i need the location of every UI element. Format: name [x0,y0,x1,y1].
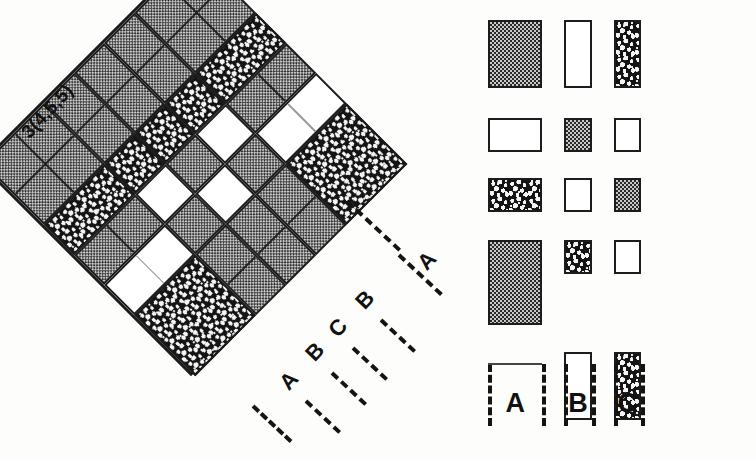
legend-column-a-baseline [488,363,542,365]
composite-edge-tick [305,400,341,434]
legend-bracket-b-right [592,364,596,426]
rotated-composite-grid [0,0,403,376]
legend-bracket-a-left [488,364,492,426]
legend-bracket-c-left [614,364,618,426]
legend-bracket-c-right [641,364,645,426]
legend-block-c-r4 [614,240,641,274]
composite-edge-label-b-1: B [300,337,330,366]
legend-block-b-r1 [564,20,591,88]
composite-edge-label-a-0: A [274,366,304,395]
composite-edge-label-c-2: C [323,313,353,342]
legend-block-a-r3 [488,178,542,212]
legend-column-label-b: B [564,388,591,419]
legend-block-b-r3 [564,178,591,212]
composite-edge-tick-end [346,200,401,252]
composite-edge-tick [352,347,388,381]
legend-block-c-r3 [614,178,641,212]
rotated-composite-wrapper [0,0,403,376]
legend-panel: ABC [470,0,756,459]
composite-edge-label-b-3: B [350,285,380,314]
legend-block-b-r4 [564,240,591,274]
legend-block-a-r1 [488,20,542,88]
legend-block-a-r2 [488,118,542,152]
legend-column-label-a: A [488,388,542,419]
legend-column-label-c: C [614,388,641,419]
legend-bracket-a-right [542,364,546,426]
legend-block-b-r2 [564,118,591,152]
legend-bracket-b-left [564,364,568,426]
legend-block-a-r4 [488,240,542,325]
legend-block-c-r2 [614,118,641,152]
figure-canvas: 3(4,5,5) ABCBA ABC [0,0,756,459]
composite-edge-tick [331,372,367,406]
composite-edge-tick [380,319,416,353]
legend-block-c-r1 [614,20,641,88]
composite-edge-tick-start [252,405,293,443]
